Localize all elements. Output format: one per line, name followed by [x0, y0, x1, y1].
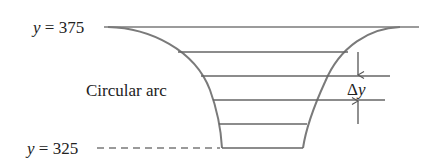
bottom-level-label: y = 325: [25, 139, 78, 158]
top-level-label: y = 375: [31, 18, 84, 37]
circular-arc-label: Circular arc: [86, 81, 167, 100]
tank-cross-section-diagram: y = 375 y = 325 Circular arc Δy: [0, 0, 443, 168]
delta-y-label: Δy: [347, 80, 366, 99]
